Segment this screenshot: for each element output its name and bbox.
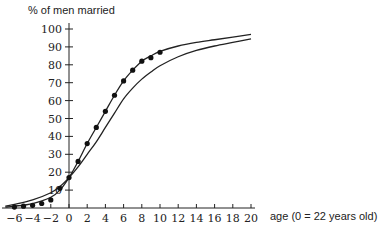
- data-point: [66, 175, 71, 180]
- x-tick-label: 0: [66, 212, 73, 225]
- fitted-curve: [5, 39, 251, 206]
- y-tick-label: 40: [48, 130, 62, 143]
- y-tick-label: 50: [48, 113, 62, 126]
- data-point: [148, 55, 153, 60]
- data-point: [39, 201, 44, 206]
- data-point: [12, 205, 17, 210]
- data-points: [12, 50, 163, 210]
- x-tick-label: 18: [226, 212, 240, 225]
- data-point: [85, 141, 90, 146]
- data-point: [157, 50, 162, 55]
- marriage-chart: % of men married −6−4−202468101214161820…: [0, 0, 381, 231]
- x-tick-label: 8: [138, 212, 145, 225]
- data-point: [130, 68, 135, 73]
- x-tick-label: −2: [43, 212, 59, 225]
- y-tick-label: 70: [48, 77, 62, 90]
- y-tick-label: 30: [48, 148, 62, 161]
- x-tick-label: 12: [171, 212, 185, 225]
- x-tick-label: 2: [84, 212, 91, 225]
- data-point: [139, 59, 144, 64]
- y-tick-label: 60: [48, 95, 62, 108]
- x-tick-label: 14: [189, 212, 203, 225]
- data-point: [94, 125, 99, 130]
- data-point: [103, 109, 108, 114]
- data-point: [21, 204, 26, 209]
- fitted-curve: [5, 34, 251, 207]
- x-tick-label: 10: [153, 212, 167, 225]
- x-tick-label: 4: [102, 212, 109, 225]
- y-tick-label: 80: [48, 59, 62, 72]
- data-point: [112, 93, 117, 98]
- x-tick-label: 20: [244, 212, 258, 225]
- x-tick-label: −6: [6, 212, 22, 225]
- y-tick-label: 20: [48, 166, 62, 179]
- y-tick-label: 90: [48, 41, 62, 54]
- x-tick-label: 6: [120, 212, 127, 225]
- data-point: [48, 197, 53, 202]
- data-point: [76, 159, 81, 164]
- axes: −6−4−20246810121416182010203040506070809…: [2, 23, 258, 225]
- data-point: [30, 203, 35, 208]
- y-axis-label: % of men married: [28, 4, 115, 16]
- data-point: [121, 78, 126, 83]
- data-point: [57, 186, 62, 191]
- x-tick-label: −4: [24, 212, 40, 225]
- x-tick-label: 16: [208, 212, 222, 225]
- fitted-curves: [5, 34, 251, 207]
- x-axis-label: age (0 = 22 years old): [270, 210, 377, 222]
- y-tick-label: 100: [41, 23, 62, 36]
